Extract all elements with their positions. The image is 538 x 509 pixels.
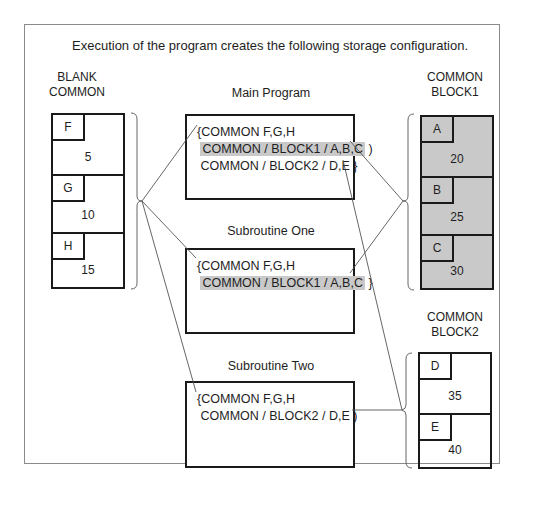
connector-lines bbox=[0, 0, 538, 509]
block1-brace bbox=[403, 114, 414, 290]
blank-common-brace bbox=[131, 113, 142, 289]
block2-brace bbox=[402, 353, 412, 468]
